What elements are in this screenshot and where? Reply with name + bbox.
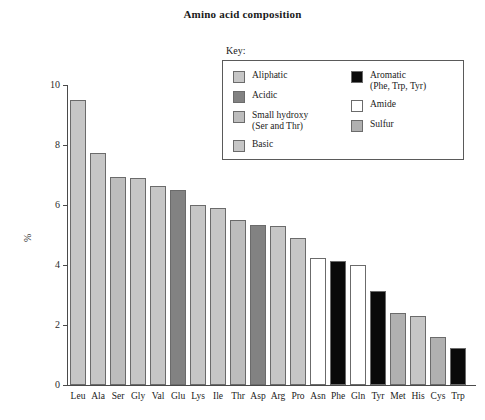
bar-rect	[130, 178, 146, 385]
bar-rect	[330, 261, 346, 386]
x-axis-tick-label: Met	[388, 391, 408, 401]
bar-rect	[150, 186, 166, 386]
legend-swatch-icon	[233, 91, 245, 103]
bar-glu	[170, 85, 186, 385]
bar-rect	[210, 208, 226, 385]
bar-rect	[230, 220, 246, 385]
x-axis-tick-label: Gln	[348, 391, 368, 401]
legend-item-label: Aromatic (Phe, Trp, Tyr)	[370, 70, 426, 92]
x-axis-tick-label: Thr	[228, 391, 248, 401]
x-axis-tick-label: Ala	[88, 391, 108, 401]
legend-item-label: Amide	[370, 99, 396, 110]
x-axis-tick-label: Ile	[208, 391, 228, 401]
bar-rect	[170, 190, 186, 385]
x-axis-tick-label: Ser	[108, 391, 128, 401]
x-axis-tick-label: Val	[148, 391, 168, 401]
bar-val	[150, 85, 166, 385]
legend-item-amide: Amide	[351, 99, 426, 112]
bar-rect	[110, 177, 126, 386]
legend-item-label: Aliphatic	[252, 70, 287, 81]
x-axis-tick-label: Gly	[128, 391, 148, 401]
legend-column-right: Aromatic (Phe, Trp, Tyr)AmideSulfur	[351, 70, 426, 139]
y-axis-tick-label: 2	[55, 320, 60, 330]
bar-rect	[390, 313, 406, 385]
legend-item-small-hydroxy: Small hydroxy (Ser and Thr)	[233, 110, 308, 132]
x-axis-tick-label: Tyr	[368, 391, 388, 401]
bar-rect	[450, 348, 466, 386]
bar-rect	[70, 100, 86, 385]
legend-item-sulfur: Sulfur	[351, 119, 426, 132]
bar-rect	[190, 205, 206, 385]
x-axis-tick-label: Pro	[288, 391, 308, 401]
bar-ala	[90, 85, 106, 385]
bar-rect	[290, 238, 306, 385]
x-axis-tick-label: His	[408, 391, 428, 401]
x-axis-tick-label: Leu	[68, 391, 88, 401]
legend-item-acidic: Acidic	[233, 90, 308, 103]
legend-item-aliphatic: Aliphatic	[233, 70, 308, 83]
legend-swatch-icon	[233, 140, 245, 152]
legend-swatch-icon	[233, 111, 245, 123]
y-axis-tick	[63, 385, 68, 386]
legend-box: AliphaticAcidicSmall hydroxy (Ser and Th…	[222, 60, 464, 160]
legend-item-label: Sulfur	[370, 119, 394, 130]
bar-rect	[430, 337, 446, 385]
legend-item-aromatic: Aromatic (Phe, Trp, Tyr)	[351, 70, 426, 92]
x-axis-tick-label: Trp	[448, 391, 468, 401]
bar-leu	[70, 85, 86, 385]
bar-rect	[350, 265, 366, 385]
y-axis-tick-label: 8	[55, 140, 60, 150]
chart-title: Amino acid composition	[0, 8, 485, 20]
y-axis-tick-label: 0	[55, 380, 60, 390]
bar-rect	[270, 226, 286, 385]
legend-swatch-icon	[351, 100, 363, 112]
x-axis-tick-label: Lys	[188, 391, 208, 401]
bar-lys	[190, 85, 206, 385]
legend-swatch-icon	[351, 120, 363, 132]
legend-swatch-icon	[351, 71, 363, 83]
x-axis-line	[67, 385, 476, 386]
x-axis-tick-label: Phe	[328, 391, 348, 401]
legend-item-label: Small hydroxy (Ser and Thr)	[252, 110, 308, 132]
bar-ser	[110, 85, 126, 385]
x-axis-tick-label: Asn	[308, 391, 328, 401]
x-axis-tick-label: Cys	[428, 391, 448, 401]
legend-item-label: Acidic	[252, 90, 277, 101]
legend-column-left: AliphaticAcidicSmall hydroxy (Ser and Th…	[233, 70, 308, 159]
legend-swatch-icon	[233, 71, 245, 83]
legend-item-basic: Basic	[233, 139, 308, 152]
bar-rect	[250, 225, 266, 386]
bar-rect	[410, 316, 426, 385]
x-axis-tick-label: Arg	[268, 391, 288, 401]
y-axis-tick-label: 10	[50, 80, 60, 90]
legend-item-label: Basic	[252, 139, 273, 150]
y-axis-tick-label: 4	[55, 260, 60, 270]
y-axis-tick-label: 6	[55, 200, 60, 210]
x-axis-tick-label: Glu	[168, 391, 188, 401]
bar-rect	[310, 258, 326, 386]
x-axis-tick-label: Asp	[248, 391, 268, 401]
bar-rect	[370, 291, 386, 386]
amino-acid-composition-chart: Amino acid composition % 0246810 LeuAlaS…	[0, 0, 485, 420]
legend-key-label: Key:	[226, 45, 245, 56]
bar-gly	[130, 85, 146, 385]
bar-rect	[90, 153, 106, 386]
y-axis-title: %	[22, 234, 33, 242]
